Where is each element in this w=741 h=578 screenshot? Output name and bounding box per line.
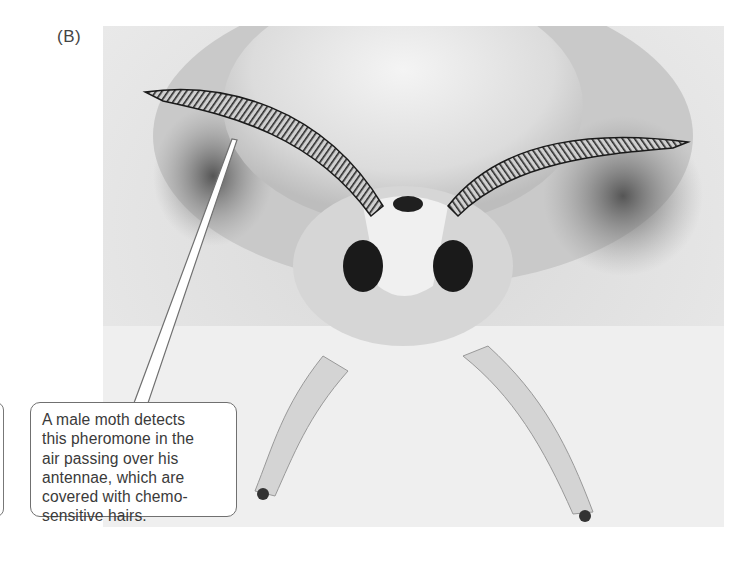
callout-text: A male moth detects this pheromone in th… bbox=[42, 410, 236, 526]
panel-label: (B) bbox=[57, 27, 81, 47]
callout-box: A male moth detects this pheromone in th… bbox=[30, 402, 237, 517]
adjacent-panel-box-edge bbox=[0, 402, 4, 517]
